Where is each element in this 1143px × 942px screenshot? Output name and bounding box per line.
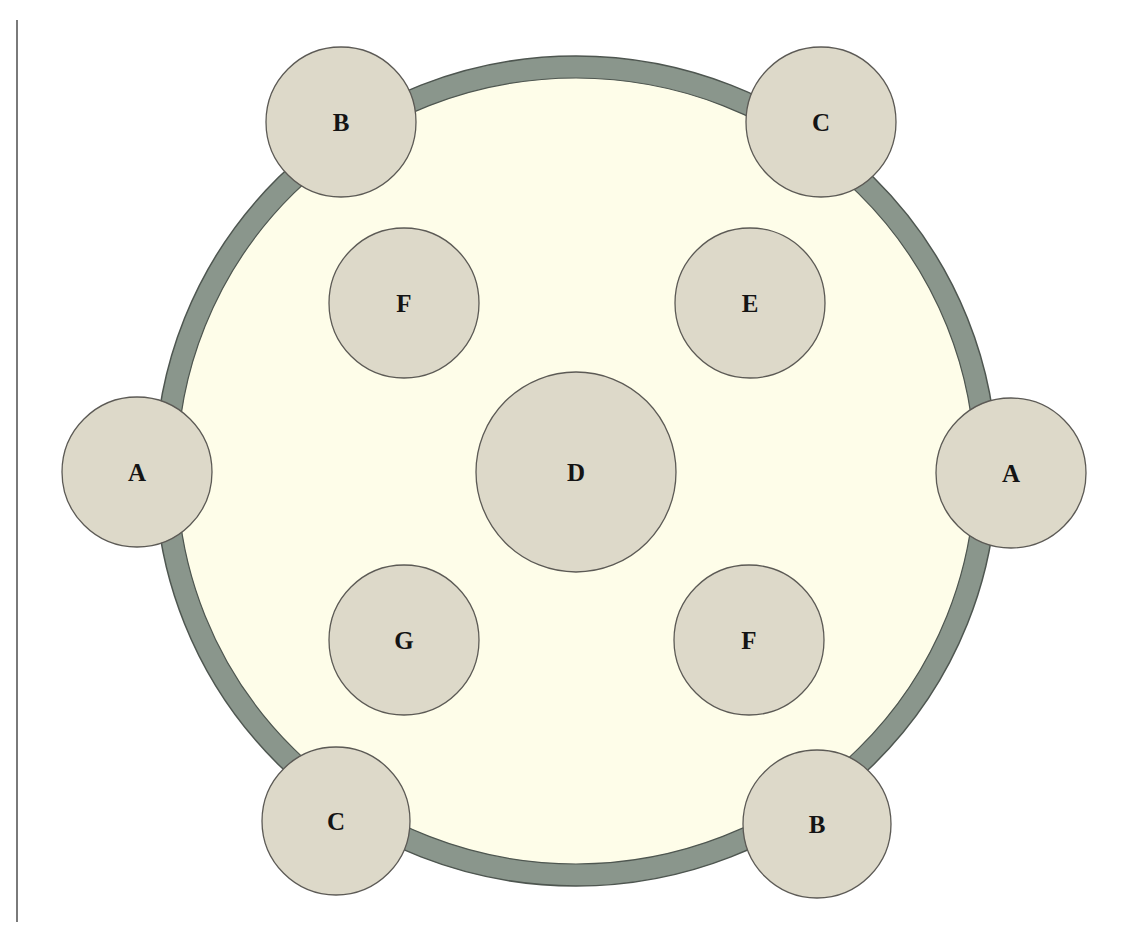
- node-label: F: [741, 627, 756, 654]
- node-b-bottom: B: [743, 750, 891, 898]
- node-d: D: [476, 372, 676, 572]
- circular-layout-diagram: AABCCBFEDGF: [0, 0, 1143, 942]
- node-c-bottom: C: [262, 747, 410, 895]
- node-label: F: [396, 290, 411, 317]
- node-label: B: [809, 811, 826, 838]
- node-label: G: [394, 627, 413, 654]
- node-a-right: A: [936, 398, 1086, 548]
- node-a-left: A: [62, 397, 212, 547]
- node-e: E: [675, 228, 825, 378]
- node-label: D: [567, 459, 585, 486]
- node-label: E: [742, 290, 759, 317]
- node-label: A: [1002, 460, 1020, 487]
- node-label: A: [128, 459, 146, 486]
- node-c-top: C: [746, 47, 896, 197]
- node-f-upper: F: [329, 228, 479, 378]
- diagram-canvas: AABCCBFEDGF: [0, 0, 1143, 942]
- node-g: G: [329, 565, 479, 715]
- node-label: B: [333, 109, 350, 136]
- node-f-lower: F: [674, 565, 824, 715]
- node-b-top: B: [266, 47, 416, 197]
- node-label: C: [327, 808, 345, 835]
- node-label: C: [812, 109, 830, 136]
